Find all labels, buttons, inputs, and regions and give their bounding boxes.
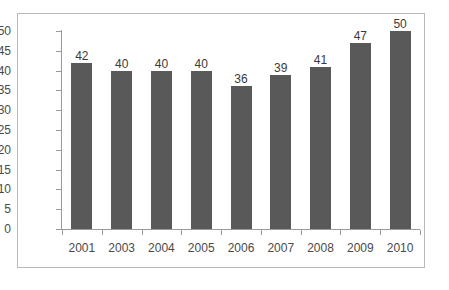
y-axis-tick-label: 15 [0,164,11,176]
bar[interactable]: 47 [350,43,371,229]
bar[interactable]: 40 [151,71,172,229]
bar[interactable]: 42 [71,63,92,229]
bar[interactable]: 36 [231,86,252,229]
x-axis-category-label: 2010 [387,242,414,254]
y-axis-tick-label: 50 [0,25,11,37]
x-axis-tick [221,230,222,235]
bar-value-label: 40 [195,58,208,70]
bar[interactable]: 39 [270,75,291,229]
y-axis-tick-label: 10 [0,183,11,195]
chart-frame: 50454035302520151050 424040403639414750 … [17,13,425,268]
y-axis-tick [56,51,61,52]
y-axis-tick [56,90,61,91]
x-axis-tick [142,230,143,235]
y-axis-tick-label: 30 [0,104,11,116]
y-axis-tick [56,110,61,111]
x-axis-tick [420,230,421,235]
bar-value-label: 36 [234,73,247,85]
plot-area: 424040403639414750 [62,31,420,229]
bar-value-label: 39 [274,62,287,74]
x-axis-tick [380,230,381,235]
bar[interactable]: 50 [390,31,411,229]
bar-value-label: 42 [75,50,88,62]
y-axis-tick-label: 5 [4,203,11,215]
y-axis-tick [56,229,61,230]
y-axis-tick [56,71,61,72]
y-axis-tick [56,189,61,190]
x-axis-tick [181,230,182,235]
x-axis-tick [340,230,341,235]
bar-value-label: 40 [155,58,168,70]
x-axis-category-label: 2009 [347,242,374,254]
x-axis-line [61,229,420,230]
y-axis-tick-label: 0 [4,223,11,235]
x-axis-category-label: 2001 [69,242,96,254]
bar-value-label: 41 [314,54,327,66]
bar[interactable]: 40 [111,71,132,229]
x-axis-tick [102,230,103,235]
y-axis-tick [56,209,61,210]
x-axis-tick [62,230,63,235]
x-axis-tick [301,230,302,235]
y-axis-tick-label: 20 [0,144,11,156]
bar-value-label: 40 [115,58,128,70]
bar-value-label: 50 [393,18,406,30]
y-axis-tick [56,31,61,32]
y-axis-tick [56,130,61,131]
bar-value-label: 47 [354,30,367,42]
y-axis-tick-label: 45 [0,45,11,57]
y-axis-tick-label: 25 [0,124,11,136]
bar[interactable]: 40 [191,71,212,229]
y-axis-tick [56,150,61,151]
x-axis-category-label: 2006 [228,242,255,254]
x-axis-category-label: 2008 [307,242,334,254]
y-axis-tick-label: 40 [0,65,11,77]
x-axis-tick [261,230,262,235]
x-axis-category-label: 2003 [108,242,135,254]
bar[interactable]: 41 [310,67,331,229]
y-axis-tick [56,170,61,171]
x-axis-category-label: 2004 [148,242,175,254]
x-axis-category-label: 2007 [267,242,294,254]
x-axis-category-label: 2005 [188,242,215,254]
y-axis-tick-label: 35 [0,84,11,96]
